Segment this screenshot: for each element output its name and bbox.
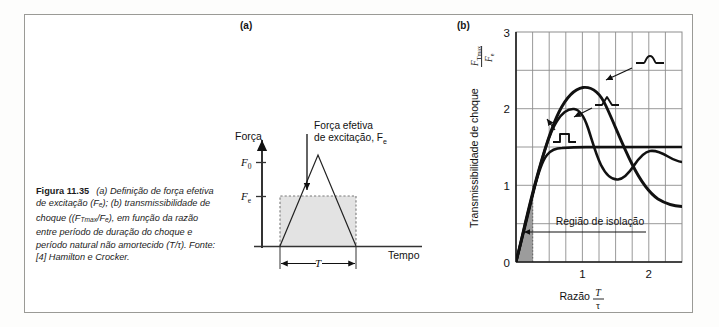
panel-a-annotation-line2: de excitação, Fe <box>314 132 387 145</box>
y-tick-label-2: 2 <box>504 103 510 115</box>
isolation-region-label: Região de isolação <box>556 216 645 227</box>
x-tick-label-1: 1 <box>579 268 585 280</box>
y-fraction-num-sub: Tmax <box>475 45 482 60</box>
panel-a-annotation-line1: Força efetiva <box>314 120 373 131</box>
y-tick-label-3: 3 <box>504 27 510 39</box>
caption-sub-2: Tmax <box>80 216 96 223</box>
panel-b-x-axis-fraction: T τ <box>593 287 604 311</box>
panel-a-annotation-line2-sub: e <box>383 138 387 145</box>
panel-a-annotation-line2-text: de excitação, F <box>314 132 383 143</box>
y-fraction-numerator: FTmax <box>470 45 482 67</box>
x-fraction-numerator: T <box>595 287 602 298</box>
y-fraction-den-sub: e <box>488 53 495 56</box>
panel-a-diagram: Força Tempo F0 Fe Força efetiva de excit… <box>236 126 436 291</box>
panel-a-x-axis-label: Tempo <box>388 249 420 261</box>
panel-b-chart: 3 2 1 0 1 2 Transmissibilidade de choque… <box>450 18 700 318</box>
y-fraction-denominator: Fe <box>484 53 495 63</box>
y-tick-label-1: 1 <box>504 180 510 192</box>
panel-a-letter: (a) <box>240 20 252 31</box>
panel-b-y-axis-title: Transmissibilidade de choque <box>468 88 480 228</box>
panel-a-tick-label-f0: F0 <box>240 156 252 171</box>
figure-caption: Figura 11.35(a) Definição de força efeti… <box>36 185 221 263</box>
effective-force-shade <box>280 196 356 246</box>
tick-f0-sub: 0 <box>248 162 252 171</box>
panel-a-tick-label-fe: Fe <box>240 190 252 205</box>
figure-root: Figura 11.35(a) Definição de força efeti… <box>0 0 719 327</box>
panel-b-x-axis-title: Razão <box>559 290 590 302</box>
tick-fe-sub: e <box>248 196 252 205</box>
panel-a-y-axis-label: Força <box>235 130 262 142</box>
figure-number: Figura 11.35 <box>36 186 89 196</box>
caption-part-3: /F <box>97 213 105 223</box>
y-tick-label-0: 0 <box>504 257 510 269</box>
x-fraction-denominator: τ <box>596 300 600 311</box>
panel-a-duration-label: T <box>315 257 322 269</box>
x-tick-label-2: 2 <box>646 268 652 280</box>
panel-b-y-axis-fraction: FTmax Fe <box>470 45 495 67</box>
